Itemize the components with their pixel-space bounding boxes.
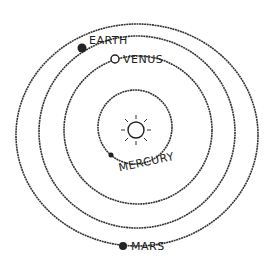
venus-planet-icon (111, 55, 119, 63)
sun-icon (121, 115, 151, 145)
earth-label: EARTH (89, 34, 128, 47)
mars-label: MARS (131, 240, 165, 253)
mars-planet-icon (119, 242, 127, 250)
venus-label: VENUS (123, 53, 163, 66)
solar-system-diagram: EARTH VENUS MERCURY MARS (0, 0, 273, 261)
earth-planet-icon (78, 44, 87, 53)
mercury-planet-icon (109, 153, 114, 158)
mercury-label: MERCURY (117, 150, 175, 174)
